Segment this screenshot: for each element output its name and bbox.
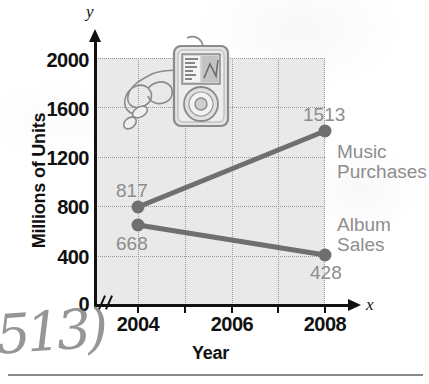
ytick-label-2000: 2000 bbox=[47, 49, 90, 72]
gridline-y-400 bbox=[96, 256, 325, 257]
xtick-2008 bbox=[324, 305, 326, 313]
y-axis-line bbox=[94, 40, 97, 306]
value-label-817: 817 bbox=[116, 180, 148, 202]
xtick-label-2006: 2006 bbox=[202, 313, 262, 336]
x-axis-line bbox=[94, 304, 349, 307]
value-label-668: 668 bbox=[116, 233, 148, 255]
series-label-album-sales-text: Album Sales bbox=[337, 215, 391, 255]
xtick-label-2004: 2004 bbox=[108, 313, 168, 336]
chart-figure: y x 2000 1600 1200 800 400 0 2004 2006 2… bbox=[0, 0, 429, 384]
xtick-2007 bbox=[277, 305, 279, 313]
mp3-player-icon bbox=[104, 28, 234, 136]
xtick-label-2008: 2008 bbox=[295, 313, 355, 336]
y-axis-letter: y bbox=[86, 2, 94, 22]
x-axis-arrow bbox=[348, 299, 361, 311]
ytick-label-400: 400 bbox=[57, 246, 89, 269]
series-label-music-purchases: Music Purchases bbox=[337, 142, 427, 182]
y-axis-arrow bbox=[89, 29, 101, 42]
series-label-album-sales: Album Sales bbox=[337, 215, 391, 255]
ytick-label-1600: 1600 bbox=[47, 98, 90, 121]
gridline-x-2007 bbox=[278, 58, 279, 305]
handwritten-note: 513) bbox=[0, 296, 106, 366]
x-axis-title: Year bbox=[96, 343, 325, 364]
ytick-label-1200: 1200 bbox=[47, 147, 90, 170]
series-label-music-purchases-text: Music Purchases bbox=[337, 142, 427, 182]
ytick-label-800: 800 bbox=[57, 196, 89, 219]
value-label-428: 428 bbox=[310, 262, 342, 284]
xtick-2005 bbox=[184, 305, 186, 313]
gridline-y-800 bbox=[96, 206, 325, 207]
value-label-1513: 1513 bbox=[303, 104, 345, 126]
gridline-y-1200 bbox=[96, 157, 325, 158]
page-bottom-rule bbox=[8, 374, 423, 376]
xtick-2006 bbox=[231, 305, 233, 313]
y-axis-title: Millions of Units bbox=[29, 76, 50, 286]
xtick-2004 bbox=[137, 305, 139, 313]
x-axis-letter: x bbox=[366, 295, 374, 315]
